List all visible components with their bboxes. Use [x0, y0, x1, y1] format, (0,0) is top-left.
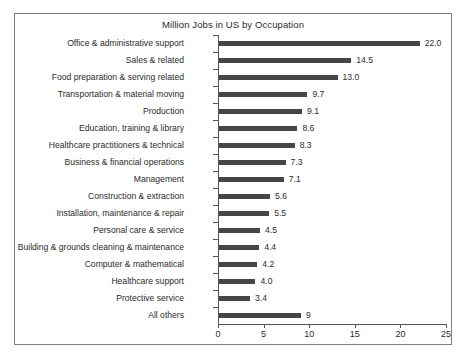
bar — [219, 296, 250, 301]
bar — [219, 126, 297, 131]
bar-row: Sales & related14.5 — [15, 52, 451, 69]
bar — [219, 58, 351, 63]
bar — [219, 75, 338, 80]
bar-row: Personal care & service4.5 — [15, 222, 451, 239]
x-axis-tick — [400, 324, 401, 328]
bar — [219, 177, 284, 182]
category-label: Protective service — [116, 290, 184, 307]
category-tick — [213, 171, 218, 172]
x-axis-tick-label: 5 — [252, 329, 276, 339]
bar — [219, 41, 420, 46]
category-tick — [213, 35, 218, 36]
category-label: Office & administrative support — [67, 35, 184, 52]
category-tick — [213, 307, 218, 308]
category-label: Building & grounds cleaning & maintenanc… — [18, 239, 184, 256]
x-axis-tick — [355, 324, 356, 328]
bar-value-label: 8.6 — [302, 120, 314, 137]
bar-value-label: 9.7 — [312, 86, 324, 103]
category-label: Management — [134, 171, 184, 188]
category-label: Production — [143, 103, 184, 120]
bar-value-label: 4.5 — [265, 222, 277, 239]
category-label: Sales & related — [126, 52, 184, 69]
bar-value-label: 7.1 — [289, 171, 301, 188]
bar-row: Management7.1 — [15, 171, 451, 188]
bar — [219, 313, 301, 318]
x-axis-tick — [218, 324, 219, 328]
category-label: Transportation & material moving — [58, 86, 184, 103]
bar — [219, 92, 307, 97]
bar-value-label: 3.4 — [255, 290, 267, 307]
bar-value-label: 9 — [306, 307, 311, 324]
x-axis-tick — [309, 324, 310, 328]
bar — [219, 228, 260, 233]
bar-value-label: 5.5 — [274, 205, 286, 222]
bar-value-label: 4.0 — [260, 273, 272, 290]
x-axis-tick — [446, 324, 447, 328]
category-tick — [213, 222, 218, 223]
category-tick — [213, 120, 218, 121]
x-axis-tick-label: 15 — [343, 329, 367, 339]
category-tick — [213, 52, 218, 53]
category-tick — [213, 86, 218, 87]
bar-row: Office & administrative support22.0 — [15, 35, 451, 52]
bar-row: Protective service3.4 — [15, 290, 451, 307]
category-label: Education, training & library — [79, 120, 184, 137]
bar-row: Healthcare practitioners & technical8.3 — [15, 137, 451, 154]
bar-value-label: 13.0 — [343, 69, 360, 86]
category-tick — [213, 69, 218, 70]
bar-row: Computer & mathematical4.2 — [15, 256, 451, 273]
category-tick — [213, 239, 218, 240]
category-tick — [213, 103, 218, 104]
bar — [219, 279, 255, 284]
bar-value-label: 14.5 — [356, 52, 373, 69]
bar-row: Production9.1 — [15, 103, 451, 120]
bar-value-label: 4.4 — [264, 239, 276, 256]
category-tick — [213, 273, 218, 274]
bar-row: Business & financial operations7.3 — [15, 154, 451, 171]
bar-value-label: 9.1 — [307, 103, 319, 120]
x-axis-tick-label: 0 — [206, 329, 230, 339]
chart-frame: Million Jobs in US by Occupation Office … — [14, 13, 452, 345]
bar — [219, 143, 295, 148]
category-label: Food preparation & serving related — [52, 69, 184, 86]
bar-row: Installation, maintenance & repair5.5 — [15, 205, 451, 222]
bar — [219, 262, 257, 267]
value-axis-line — [218, 324, 446, 325]
category-label: All others — [148, 307, 184, 324]
category-label: Installation, maintenance & repair — [56, 205, 184, 222]
bar-row: Healthcare support4.0 — [15, 273, 451, 290]
bar — [219, 211, 269, 216]
chart-title: Million Jobs in US by Occupation — [15, 19, 451, 30]
category-tick — [213, 154, 218, 155]
category-tick — [213, 137, 218, 138]
x-axis-tick-label: 25 — [434, 329, 458, 339]
category-label: Business & financial operations — [65, 154, 184, 171]
x-axis-tick-label: 10 — [297, 329, 321, 339]
bar-row: Food preparation & serving related13.0 — [15, 69, 451, 86]
bar-value-label: 4.2 — [262, 256, 274, 273]
x-axis-tick — [264, 324, 265, 328]
category-label: Healthcare practitioners & technical — [49, 137, 184, 154]
bar-value-label: 7.3 — [291, 154, 303, 171]
x-axis-tick-label: 20 — [388, 329, 412, 339]
bar-row: Building & grounds cleaning & maintenanc… — [15, 239, 451, 256]
bar-row: Construction & extraction5.6 — [15, 188, 451, 205]
bar-row: Education, training & library8.6 — [15, 120, 451, 137]
category-tick — [213, 205, 218, 206]
bar-value-label: 8.3 — [300, 137, 312, 154]
bar-row: Transportation & material moving9.7 — [15, 86, 451, 103]
bar — [219, 109, 302, 114]
bar-value-label: 22.0 — [425, 35, 442, 52]
bar-value-label: 5.6 — [275, 188, 287, 205]
plot-area: Office & administrative support22.0Sales… — [15, 33, 451, 346]
category-label: Computer & mathematical — [85, 256, 184, 273]
category-tick — [213, 256, 218, 257]
bar — [219, 245, 259, 250]
bar — [219, 160, 286, 165]
category-label: Construction & extraction — [88, 188, 184, 205]
bar — [219, 194, 270, 199]
category-label: Personal care & service — [93, 222, 184, 239]
category-tick — [213, 188, 218, 189]
category-tick — [213, 290, 218, 291]
bar-row: All others9 — [15, 307, 451, 324]
